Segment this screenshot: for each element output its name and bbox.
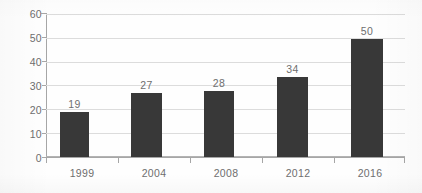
bar-2016[interactable] xyxy=(351,39,383,157)
x-axis-line xyxy=(46,157,405,158)
bar-chart-screenshot: 60 50 40 30 20 10 0 19 27 28 34 50 xyxy=(0,0,422,193)
bar-value-1999: 19 xyxy=(52,98,98,110)
x-axis-tick-mark xyxy=(190,157,191,163)
bar-value-2012: 34 xyxy=(269,63,317,75)
x-axis-label-2008: 2008 xyxy=(190,167,262,179)
x-axis-tick-mark xyxy=(334,157,335,163)
x-axis-tick-mark xyxy=(262,157,263,163)
x-axis-tick-mark xyxy=(46,157,47,163)
bar-2004[interactable] xyxy=(131,93,162,157)
bar-1999[interactable] xyxy=(60,112,89,157)
y-axis-tick-label: 60 xyxy=(0,8,42,20)
y-axis-tick-label: 40 xyxy=(0,56,42,68)
bar-value-2004: 27 xyxy=(123,79,171,91)
y-axis-tick-label: 50 xyxy=(0,32,42,44)
bar-2012[interactable] xyxy=(277,77,308,157)
y-axis-tick-label: 0 xyxy=(0,152,42,164)
bar-2008[interactable] xyxy=(204,91,234,157)
y-axis-tick-label: 30 xyxy=(0,80,42,92)
bar-value-2016: 50 xyxy=(343,25,391,37)
x-axis-label-2004: 2004 xyxy=(118,167,190,179)
x-axis-end-cap xyxy=(404,157,405,163)
gridline-60 xyxy=(46,14,405,15)
y-axis-tick-label: 20 xyxy=(0,104,42,116)
y-axis-tick-label: 10 xyxy=(0,128,42,140)
x-axis-tick-mark xyxy=(118,157,119,163)
bar-value-2008: 28 xyxy=(195,77,243,89)
x-axis-label-2016: 2016 xyxy=(334,167,406,179)
x-axis-label-1999: 1999 xyxy=(46,167,118,179)
x-axis-label-2012: 2012 xyxy=(262,167,334,179)
